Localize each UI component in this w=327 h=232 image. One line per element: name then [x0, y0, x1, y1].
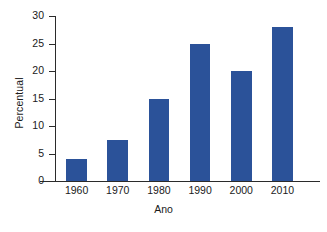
bar-rect	[107, 140, 128, 181]
y-tick-mark	[49, 154, 55, 155]
x-tick-label: 2000	[221, 185, 262, 196]
x-tick-label: 1990	[180, 185, 221, 196]
bar-rect	[272, 27, 293, 181]
y-tick-label: 30	[4, 10, 44, 21]
bar-1970	[107, 16, 128, 181]
x-axis-label: Ano	[0, 203, 327, 215]
x-axis-line	[40, 181, 320, 182]
bar-rect	[149, 99, 170, 182]
y-tick-mark	[49, 99, 55, 100]
y-tick-mark	[49, 126, 55, 127]
bar-2010	[272, 16, 293, 181]
y-tick-label: 15	[4, 93, 44, 104]
y-tick-label: 20	[4, 65, 44, 76]
y-tick-label: 25	[4, 38, 44, 49]
bar-rect	[66, 159, 87, 181]
x-tick-label: 1970	[97, 185, 138, 196]
y-tick-label: 5	[4, 148, 44, 159]
bar-rect	[190, 44, 211, 182]
y-tick-mark	[49, 44, 55, 45]
y-tick-mark	[49, 16, 55, 17]
x-tick-label: 1980	[138, 185, 179, 196]
y-tick-mark	[49, 181, 55, 182]
x-tick-label: 1960	[56, 185, 97, 196]
y-tick-label: 10	[4, 120, 44, 131]
bar-1960	[66, 16, 87, 181]
bars-group	[56, 16, 303, 181]
caption-remnant	[16, 224, 112, 232]
y-tick-mark	[49, 71, 55, 72]
bar-1990	[190, 16, 211, 181]
x-tick-label: 2010	[262, 185, 303, 196]
bar-1980	[149, 16, 170, 181]
y-tick-label: 0	[4, 175, 44, 186]
bar-2000	[231, 16, 252, 181]
bar-chart-figure: Percentual 051015202530 1960197019801990…	[0, 0, 327, 232]
bar-rect	[231, 71, 252, 181]
